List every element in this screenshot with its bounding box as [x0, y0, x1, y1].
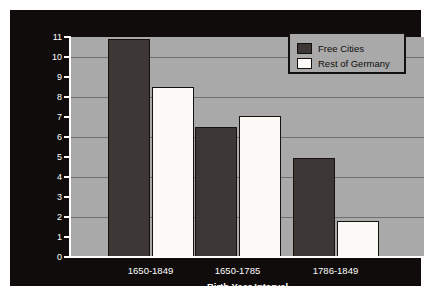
x-axis-tick-label: 1786-1849	[291, 264, 381, 277]
y-axis-tick-label: 3	[42, 191, 62, 203]
y-axis-tick-label: 7	[42, 111, 62, 123]
y-axis-tick-label: 0	[42, 251, 62, 263]
x-axis-title: Birth Year Interval	[71, 280, 424, 294]
y-axis-tick-label: 6	[42, 131, 62, 143]
legend-swatch	[297, 58, 312, 69]
legend-label: Rest of Germany	[318, 58, 390, 69]
y-axis-tick-label: 2	[42, 211, 62, 223]
y-axis-tick-label: 9	[42, 71, 62, 83]
x-axis-tick-label: 1650-1785	[193, 264, 283, 277]
y-axis-tick-label: 10	[42, 51, 62, 63]
bar	[195, 127, 237, 257]
legend-swatch	[297, 43, 312, 54]
bar	[337, 221, 379, 257]
x-axis-line	[68, 256, 426, 258]
y-axis-tick-label: 1	[42, 231, 62, 243]
bar	[293, 158, 335, 257]
chart-figure: Composers Born per Million Population 01…	[0, 0, 431, 298]
y-axis-tick-label: 4	[42, 171, 62, 183]
chart-panel: Composers Born per Million Population 01…	[10, 10, 421, 286]
legend-entry: Free Cities	[297, 40, 364, 56]
chart-legend: Free CitiesRest of Germany	[288, 32, 406, 74]
y-axis-tick-label: 11	[42, 31, 62, 43]
y-axis-tick-label: 8	[42, 91, 62, 103]
x-axis-tick-label: 1650-1849	[106, 264, 196, 277]
legend-label: Free Cities	[318, 43, 364, 54]
y-axis-line	[69, 36, 71, 258]
bar	[152, 87, 194, 257]
y-axis-tick-label: 5	[42, 151, 62, 163]
legend-entry: Rest of Germany	[297, 55, 390, 71]
bar	[108, 39, 150, 257]
bar	[239, 116, 281, 257]
